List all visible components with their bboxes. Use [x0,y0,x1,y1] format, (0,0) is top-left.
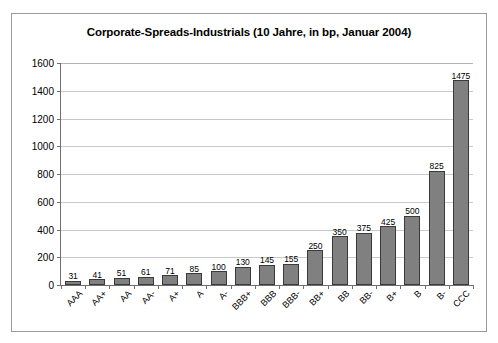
x-tick-label: AA- [140,289,157,306]
x-tick-label: BBB- [281,289,302,310]
bar-value-label: 130 [236,258,250,267]
gridline [61,146,473,147]
y-tick-mark [57,63,61,64]
bar-value-label: 500 [405,207,419,216]
bar-B: 500 [404,216,420,285]
x-tick-label: AA [118,289,133,304]
y-tick-mark [57,174,61,175]
y-tick-label: 800 [37,169,54,180]
bar-value-label: 85 [190,265,199,274]
bar-value-label: 41 [93,271,102,280]
x-tick-mark [206,285,207,289]
gridline [61,202,473,203]
x-tick-mark [279,285,280,289]
y-tick-mark [57,230,61,231]
bar-BBB+: 130 [235,267,251,285]
x-tick-mark [473,285,474,289]
y-tick-mark [57,119,61,120]
y-tick-mark [57,202,61,203]
y-tick-label: 1600 [32,58,54,69]
bar-AAA: 31 [65,281,81,285]
x-tick-label: A+ [167,289,181,303]
bar-value-label: 1475 [451,72,470,81]
y-tick-label: 0 [48,280,54,291]
y-tick-label: 1200 [32,113,54,124]
y-tick-label: 1000 [32,141,54,152]
plot-area: 02004006008001000120014001600 3141516171… [61,63,473,285]
x-tick-label: BB- [358,289,375,306]
x-tick-label: AAA [65,289,84,308]
x-tick-mark [303,285,304,289]
x-tick-mark [158,285,159,289]
bar-value-label: 51 [117,269,126,278]
x-tick-label: A- [217,289,230,302]
bar-BB: 350 [332,236,348,285]
x-tick-label: A [195,289,206,300]
bar-value-label: 100 [211,263,225,272]
x-tick-label: AA+ [90,289,109,308]
gridline [61,174,473,175]
bar-value-label: 145 [260,256,274,265]
bar-AA: 51 [114,278,130,285]
y-tick-mark [57,91,61,92]
x-tick-mark [449,285,450,289]
x-tick-mark [425,285,426,289]
bar-BB-: 375 [356,233,372,285]
x-tick-mark [85,285,86,289]
bar-BBB-: 155 [283,264,299,286]
bar-value-label: 71 [165,267,174,276]
gridline [61,91,473,92]
x-tick-label: BB [336,289,351,304]
bar-A: 85 [186,273,202,285]
x-tick-mark [109,285,110,289]
x-tick-label: BBB [259,289,278,308]
bar-A+: 71 [162,275,178,285]
bar-value-label: 31 [68,272,77,281]
x-tick-mark [231,285,232,289]
x-tick-mark [352,285,353,289]
bar-value-label: 425 [381,218,395,227]
x-tick-label: B- [435,289,448,302]
gridline [61,63,473,64]
y-tick-label: 200 [37,252,54,263]
bar-value-label: 61 [141,268,150,277]
x-tick-mark [61,285,62,289]
x-tick-mark [182,285,183,289]
chart-frame: Corporate-Spreads-Industrials (10 Jahre,… [11,13,487,332]
x-tick-mark [400,285,401,289]
bar-value-label: 155 [284,255,298,264]
x-tick-mark [134,285,135,289]
x-tick-mark [376,285,377,289]
bar-value-label: 250 [308,242,322,251]
x-tick-label: BB+ [308,289,327,308]
x-tick-mark [255,285,256,289]
bar-CCC: 1475 [453,80,469,285]
chart-title: Corporate-Spreads-Industrials (10 Jahre,… [12,26,486,38]
bar-value-label: 825 [430,162,444,171]
x-tick-label: B+ [385,289,399,303]
bar-AA-: 61 [138,277,154,285]
y-tick-label: 600 [37,196,54,207]
x-tick-label: CCC [452,289,472,309]
bar-B-: 825 [429,171,445,285]
bar-BBB: 145 [259,265,275,285]
y-tick-mark [57,257,61,258]
bar-AA+: 41 [89,279,105,285]
bar-B+: 425 [380,226,396,285]
bar-BB+: 250 [307,250,323,285]
bar-value-label: 375 [357,224,371,233]
x-tick-mark [328,285,329,289]
y-tick-label: 1400 [32,85,54,96]
gridline [61,119,473,120]
x-tick-label: BBB+ [231,289,254,312]
y-tick-mark [57,146,61,147]
x-axis-line [60,285,474,286]
y-tick-label: 400 [37,224,54,235]
bar-value-label: 350 [333,228,347,237]
bar-A-: 100 [211,271,227,285]
x-tick-label: B [413,289,424,300]
